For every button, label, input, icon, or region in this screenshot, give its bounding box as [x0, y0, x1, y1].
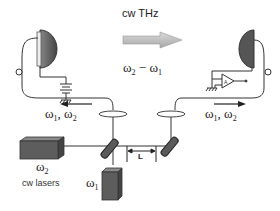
- fiber-loop-right: [265, 69, 271, 75]
- beam-left-label: ω1, ω2: [45, 107, 77, 123]
- fiber-loop-left: [16, 69, 22, 75]
- thz-arrow-icon: [123, 32, 182, 48]
- fiber-left: [22, 38, 113, 110]
- ground-icon: [206, 88, 217, 91]
- difference-frequency-label: ω2 − ω1: [123, 61, 162, 77]
- detector-antenna: [239, 30, 254, 68]
- emitter-antenna: [37, 30, 57, 68]
- laser-omega1: [102, 168, 122, 200]
- laser-omega2: [20, 137, 64, 159]
- thz-title: cw THz: [122, 8, 158, 19]
- lens-left: [99, 111, 127, 117]
- beamsplitter: [100, 138, 120, 159]
- delay-mirror: [160, 136, 180, 157]
- beam-right-label: ω1, ω2: [205, 107, 237, 123]
- lens-right: [157, 111, 185, 117]
- amplifier: A: [206, 67, 252, 91]
- lasers-caption: cw lasers: [22, 179, 60, 188]
- laser1-label: ω1: [86, 176, 99, 192]
- delay-label: L: [138, 153, 143, 161]
- laser2-label: ω2: [36, 160, 49, 176]
